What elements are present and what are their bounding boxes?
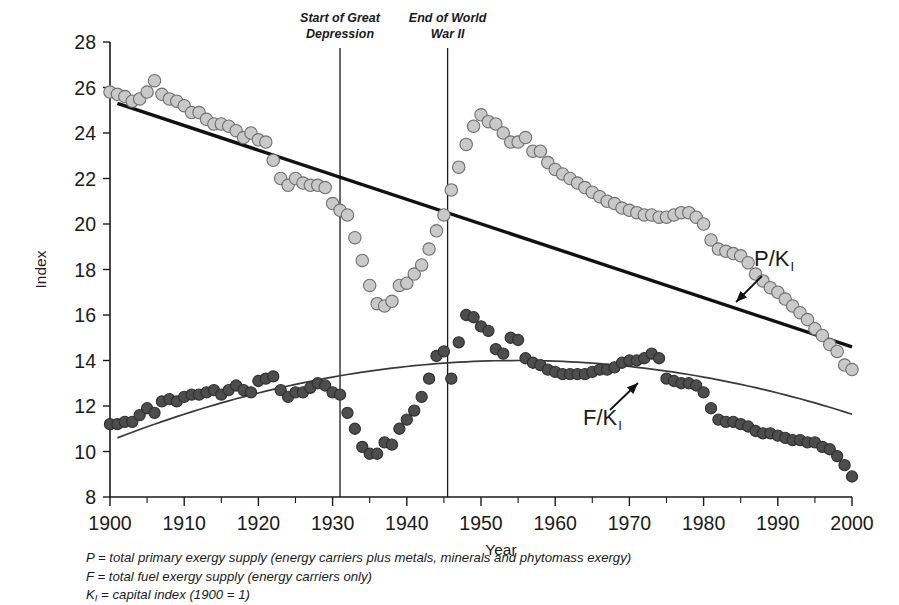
y-axis-tick-label: 20 xyxy=(74,213,96,235)
data-point-p-over-k xyxy=(260,136,272,148)
y-axis-tick-label: 26 xyxy=(74,77,96,99)
x-axis-tick-label: 1990 xyxy=(756,512,800,534)
data-point-p-over-k xyxy=(438,209,450,221)
data-point-f-over-k xyxy=(401,414,412,425)
data-point-p-over-k xyxy=(141,86,153,98)
data-point-f-over-k xyxy=(245,387,256,398)
data-point-p-over-k xyxy=(430,225,442,237)
data-point-f-over-k xyxy=(498,348,509,359)
event-label-end-wwii: End of World xyxy=(409,11,487,25)
y-axis-tick-label: 10 xyxy=(74,441,96,463)
event-label-end-wwii-line2: War II xyxy=(431,27,465,41)
data-point-p-over-k xyxy=(519,131,531,143)
y-axis-tick-label: 8 xyxy=(85,486,96,508)
data-point-p-over-k xyxy=(364,279,376,291)
caption-line-f: F = total fuel exergy supply (energy car… xyxy=(86,568,886,587)
x-axis-tick-label: 1950 xyxy=(459,512,503,534)
data-point-p-over-k xyxy=(846,363,858,375)
data-point-f-over-k xyxy=(483,325,494,336)
data-point-f-over-k xyxy=(334,389,345,400)
data-point-f-over-k xyxy=(394,423,405,434)
figure-caption: P = total primary exergy supply (energy … xyxy=(86,549,886,605)
data-point-p-over-k xyxy=(386,295,398,307)
x-axis-tick-label: 1970 xyxy=(608,512,652,534)
x-axis-tick-label: 1920 xyxy=(237,512,281,534)
data-point-f-over-k xyxy=(342,407,353,418)
axes-group: 8101214161820222426281900191019201930194… xyxy=(32,31,874,558)
x-axis-tick-label: 1930 xyxy=(311,512,355,534)
data-point-p-over-k xyxy=(349,231,361,243)
y-axis-tick-label: 18 xyxy=(74,259,96,281)
data-point-p-over-k xyxy=(460,138,472,150)
data-point-f-over-k xyxy=(268,371,279,382)
data-point-p-over-k xyxy=(341,209,353,221)
y-axis-tick-label: 16 xyxy=(74,304,96,326)
data-point-p-over-k xyxy=(148,74,160,86)
caption-line-k: KI = capital index (1900 = 1) xyxy=(86,586,886,605)
data-point-p-over-k xyxy=(267,154,279,166)
chart-plot-svg: 8101214161820222426281900191019201930194… xyxy=(0,0,899,605)
data-point-f-over-k xyxy=(698,387,709,398)
series-labels-group: P/KIF/KI xyxy=(583,246,794,433)
data-point-p-over-k xyxy=(415,259,427,271)
y-axis-tick-label: 14 xyxy=(74,350,96,372)
y-axis-tick-label: 28 xyxy=(74,31,96,53)
data-point-p-over-k xyxy=(445,184,457,196)
data-point-f-over-k xyxy=(416,391,427,402)
data-point-p-over-k xyxy=(356,254,368,266)
data-point-f-over-k xyxy=(468,312,479,323)
data-point-f-over-k xyxy=(149,407,160,418)
data-point-f-over-k xyxy=(846,471,857,482)
caption-line-p: P = total primary exergy supply (energy … xyxy=(86,549,886,568)
series-label-f-over-k: F/KI xyxy=(583,405,622,433)
x-axis-tick-label: 1960 xyxy=(534,512,578,534)
data-point-f-over-k xyxy=(453,337,464,348)
data-point-p-over-k xyxy=(319,181,331,193)
data-point-p-over-k xyxy=(742,256,754,268)
data-point-f-over-k xyxy=(832,450,843,461)
data-point-f-over-k xyxy=(446,373,457,384)
x-axis-tick-label: 1910 xyxy=(163,512,207,534)
y-axis-tick-label: 12 xyxy=(74,395,96,417)
trend-line-p-over-k xyxy=(117,103,852,346)
event-label-great-depression: Start of Great xyxy=(300,11,381,25)
data-point-f-over-k xyxy=(653,353,664,364)
data-point-f-over-k xyxy=(386,439,397,450)
x-axis-tick-label: 1980 xyxy=(682,512,726,534)
data-point-f-over-k xyxy=(423,373,434,384)
x-axis-tick-label: 1900 xyxy=(88,512,132,534)
event-label-great-depression-line2: Depression xyxy=(306,27,374,41)
x-axis-tick-label: 2000 xyxy=(830,512,874,534)
series-label-p-over-k: P/KI xyxy=(754,246,794,274)
data-point-f-over-k xyxy=(839,460,850,471)
y-axis-tick-label: 22 xyxy=(74,168,96,190)
chart-figure: 8101214161820222426281900191019201930194… xyxy=(0,0,899,605)
y-axis-tick-label: 24 xyxy=(74,122,96,144)
y-axis-title: Index xyxy=(32,250,49,288)
data-point-f-over-k xyxy=(513,334,524,345)
x-axis-tick-label: 1940 xyxy=(385,512,429,534)
data-point-f-over-k xyxy=(409,405,420,416)
data-point-p-over-k xyxy=(534,145,546,157)
data-point-f-over-k xyxy=(438,346,449,357)
data-point-p-over-k xyxy=(697,218,709,230)
data-point-p-over-k xyxy=(453,161,465,173)
data-point-p-over-k xyxy=(423,243,435,255)
event-lines-group: Start of GreatDepressionEnd of WorldWar … xyxy=(300,11,487,497)
data-point-p-over-k xyxy=(831,345,843,357)
data-point-f-over-k xyxy=(372,448,383,459)
data-point-f-over-k xyxy=(349,423,360,434)
data-point-f-over-k xyxy=(705,403,716,414)
data-point-p-over-k xyxy=(467,120,479,132)
